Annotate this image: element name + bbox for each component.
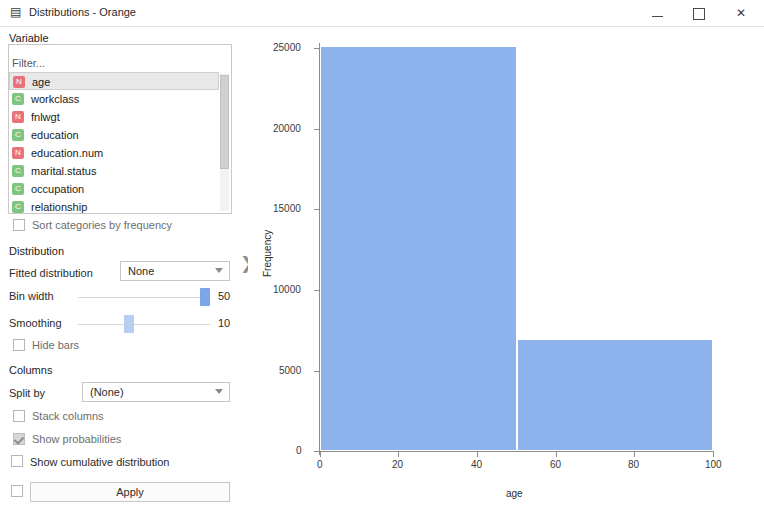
smoothing-value: 10 [218,317,230,329]
y-tick-label: 20000 [273,123,301,134]
x-tick-label: 20 [392,459,403,470]
list-item[interactable]: C relationship [9,198,223,216]
split-by-label: Split by [9,387,45,399]
split-by-value: (None) [90,386,124,398]
list-item[interactable]: C workclass [9,90,223,108]
chevron-down-icon [215,268,223,273]
x-tick [477,452,478,457]
smoothing-label: Smoothing [9,317,62,329]
y-tick-label: 5000 [279,365,301,376]
bin-width-slider-track[interactable] [78,297,210,298]
list-item[interactable]: C marital.status [9,162,223,180]
x-tick [634,452,635,457]
x-tick-label: 100 [705,459,722,470]
list-item[interactable]: C occupation [9,180,223,198]
stack-columns-checkbox[interactable] [13,410,25,422]
list-item[interactable]: N fnlwgt [9,108,223,126]
y-tick [314,371,319,372]
orange-app-icon: ▤ [10,6,23,19]
y-tick [314,129,319,130]
x-axis-title: age [506,488,523,499]
y-axis-line [319,43,320,455]
y-axis-title: Frequency [262,230,273,277]
histogram-bar[interactable] [517,339,713,451]
numeric-type-icon: N [12,147,24,159]
show-cumulative-label: Show cumulative distribution [30,456,169,468]
fitted-distribution-select[interactable]: None [120,261,230,281]
chevron-down-icon [215,389,223,394]
y-tick [314,48,319,49]
x-tick-label: 80 [628,459,639,470]
fitted-distribution-value: None [128,265,154,277]
stack-columns-label: Stack columns [32,410,104,422]
categorical-type-icon: C [12,93,24,105]
variable-name: workclass [31,93,79,105]
sort-categories-label: Sort categories by frequency [32,219,172,231]
close-icon: ✕ [736,6,746,20]
maximize-button[interactable] [678,0,720,26]
variable-list: N age C workclass N fnlwgt C education N… [9,72,223,216]
variable-name: marital.status [31,165,96,177]
minimize-button[interactable] [636,0,678,26]
smoothing-slider-track[interactable] [78,324,210,325]
apply-button[interactable]: Apply [30,482,230,502]
y-tick-label: 25000 [273,42,301,53]
x-tick [398,452,399,457]
categorical-type-icon: C [12,129,24,141]
columns-section-title: Columns [9,364,52,376]
apply-automatically-checkbox[interactable] [11,485,23,497]
variable-name: age [32,76,50,88]
distribution-plot: 0 5000 10000 15000 20000 25000 0 20 40 6… [248,27,764,506]
variable-name: fnlwgt [31,111,60,123]
bin-width-value: 50 [218,290,230,302]
x-tick [556,452,557,457]
variable-name: education.num [31,147,103,159]
y-tick-label: 15000 [273,203,301,214]
show-probabilities-checkbox[interactable] [13,433,25,445]
x-tick [713,452,714,457]
maximize-icon [693,8,705,20]
fitted-distribution-label: Fitted distribution [9,267,93,279]
x-tick-label: 40 [471,459,482,470]
numeric-type-icon: N [13,76,25,88]
hide-bars-checkbox[interactable] [13,339,25,351]
numeric-type-icon: N [12,111,24,123]
categorical-type-icon: C [12,183,24,195]
variable-name: relationship [31,201,87,213]
list-item[interactable]: N education.num [9,144,223,162]
title-bar: ▤ Distributions - Orange ✕ [0,0,764,27]
x-tick-label: 60 [550,459,561,470]
x-tick [320,452,321,457]
panel-divider [238,27,239,506]
histogram-bar[interactable] [320,46,517,451]
minimize-icon [652,10,663,17]
hide-bars-label: Hide bars [32,339,79,351]
bin-width-label: Bin width [9,290,54,302]
x-tick-label: 0 [317,459,323,470]
sort-categories-checkbox[interactable] [13,219,25,231]
filter-input[interactable]: Filter... [12,57,45,69]
list-item[interactable]: C education [9,126,223,144]
variable-section-title: Variable [9,32,49,44]
y-tick [314,209,319,210]
x-axis-line [319,451,714,452]
y-tick [314,290,319,291]
window-title: Distributions - Orange [29,6,136,18]
split-by-select[interactable]: (None) [82,382,230,402]
variable-name: occupation [31,183,84,195]
bin-width-slider-handle[interactable] [200,288,210,306]
control-panel: Variable Filter... N age C workclass N f… [0,27,238,506]
show-cumulative-checkbox[interactable] [11,455,23,467]
smoothing-slider-handle[interactable] [124,315,134,333]
categorical-type-icon: C [12,201,24,213]
y-tick [314,451,319,452]
variable-name: education [31,129,79,141]
categorical-type-icon: C [12,165,24,177]
list-item[interactable]: N age [9,72,219,90]
y-tick-label: 0 [296,445,302,456]
distribution-section-title: Distribution [9,245,64,257]
show-probabilities-label: Show probabilities [32,433,121,445]
close-button[interactable]: ✕ [720,0,762,26]
y-tick-label: 10000 [273,284,301,295]
